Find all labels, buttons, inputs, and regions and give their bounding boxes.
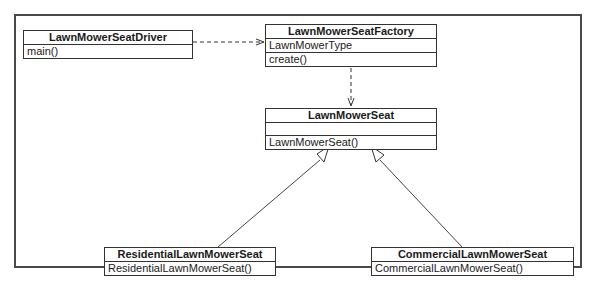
class-name: LawnMowerSeatFactory bbox=[266, 25, 436, 39]
operation: LawnMowerSeat() bbox=[266, 136, 436, 149]
operation: ResidentialLawnMowerSeat() bbox=[105, 262, 275, 275]
attributes-section bbox=[266, 123, 436, 136]
class-lawn-mower-seat-driver[interactable]: LawnMowerSeatDriver main() bbox=[23, 30, 193, 59]
class-name: ResidentialLawnMowerSeat bbox=[105, 248, 275, 262]
generalization-arrow-residential bbox=[218, 146, 329, 247]
class-name: LawnMowerSeatDriver bbox=[24, 31, 192, 45]
class-commercial-lawn-mower-seat[interactable]: CommercialLawnMowerSeat CommercialLawnMo… bbox=[371, 247, 574, 276]
class-name: LawnMowerSeat bbox=[266, 109, 436, 123]
operation: create() bbox=[266, 53, 436, 66]
dependency-arrow-driver-factory bbox=[193, 39, 264, 45]
operation: main() bbox=[24, 45, 192, 58]
operation: CommercialLawnMowerSeat() bbox=[372, 262, 573, 275]
class-lawn-mower-seat[interactable]: LawnMowerSeat LawnMowerSeat() bbox=[265, 108, 437, 150]
class-residential-lawn-mower-seat[interactable]: ResidentialLawnMowerSeat ResidentialLawn… bbox=[104, 247, 276, 276]
class-lawn-mower-seat-factory[interactable]: LawnMowerSeatFactory LawnMowerType creat… bbox=[265, 24, 437, 67]
attribute: LawnMowerType bbox=[266, 39, 436, 53]
class-name: CommercialLawnMowerSeat bbox=[372, 248, 573, 262]
dependency-arrow-factory-seat bbox=[348, 61, 354, 106]
generalization-arrow-commercial bbox=[371, 146, 462, 247]
